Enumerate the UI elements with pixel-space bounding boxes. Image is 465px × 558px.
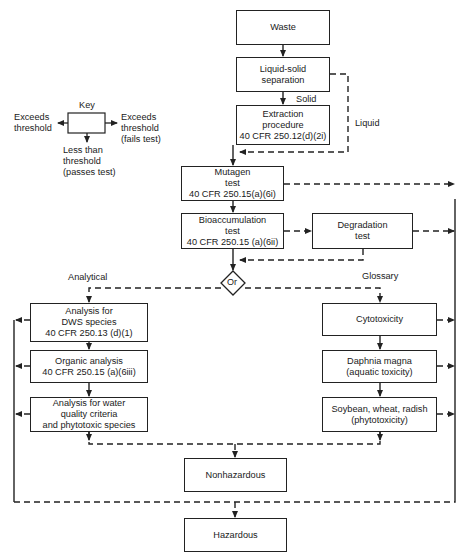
node-text: Degradation [337, 220, 387, 231]
node-text: procedure [262, 120, 303, 131]
decision-or-label: Or [227, 277, 237, 287]
node-text: separation [262, 75, 305, 86]
node-text: Extraction [263, 109, 304, 120]
node-text: 40 CFR 250.15(a)(6i) [189, 189, 276, 200]
key-text: threshold [121, 123, 161, 134]
node-extraction-procedure: Extraction procedure 40 CFR 250.12(d)(2i… [236, 105, 330, 145]
node-cytotoxicity: Cytotoxicity [322, 303, 437, 336]
node-text: Liquid-solid [260, 64, 306, 75]
edge-label-glossary: Glossary [362, 271, 398, 282]
node-water-quality-analysis: Analysis for water quality criteria and … [30, 397, 148, 432]
node-text: 40 CFR 250.12(d)(2i) [240, 131, 327, 142]
node-text: Hazardous [213, 530, 257, 541]
node-mutagen-test: Mutagen test 40 CFR 250.15(a)(6i) [181, 166, 284, 201]
node-nonhazardous: Nonhazardous [184, 458, 287, 492]
node-text: test [225, 226, 240, 237]
node-text: Nonhazardous [206, 470, 266, 481]
edge-label-solid: Solid [296, 94, 316, 105]
node-text: Organic analysis [55, 356, 123, 367]
node-hazardous: Hazardous [184, 518, 287, 552]
node-text: 40 CFR 250.15 (a)(6iii) [42, 367, 135, 378]
key-right-label: Exceeds threshold (fails test) [121, 112, 161, 145]
node-bioaccumulation-test: Bioaccumulation test 40 CFR 250.15 (a)(6… [181, 213, 284, 249]
key-text: threshold [63, 156, 116, 167]
key-text: Exceeds [14, 112, 52, 123]
key-text: threshold [14, 123, 52, 134]
node-text: and phytotoxic species [43, 420, 136, 431]
node-soybean-wheat-radish: Soybean, wheat, radish (phytotoxicity) [322, 397, 437, 432]
key-text: (passes test) [63, 167, 116, 178]
node-text: Analysis for water [53, 398, 126, 409]
node-organic-analysis: Organic analysis 40 CFR 250.15 (a)(6iii) [30, 350, 148, 383]
node-text: test [355, 231, 370, 242]
node-text: Analysis for [65, 306, 113, 317]
node-text: (phytotoxicity) [351, 415, 408, 426]
node-text: 40 CFR 250.15 (a)(6ii) [187, 237, 278, 248]
key-text: Less than [63, 145, 116, 156]
node-text: 40 CFR 250.13 (d)(1) [45, 328, 132, 339]
node-text: quality criteria [61, 409, 118, 420]
node-degradation-test: Degradation test [312, 213, 413, 249]
node-text: (aquatic toxicity) [346, 367, 412, 378]
key-text: (fails test) [121, 134, 161, 145]
node-waste: Waste [236, 10, 330, 45]
edge-label-analytical: Analytical [68, 272, 107, 283]
node-text: Waste [270, 22, 296, 33]
node-text: Bioaccumulation [199, 215, 266, 226]
node-liquid-solid-separation: Liquid-solid separation [236, 57, 330, 92]
key-text: Exceeds [121, 112, 161, 123]
key-left-label: Exceeds threshold [14, 112, 52, 134]
key-title: Key [79, 100, 95, 111]
node-text: Cytotoxicity [356, 314, 403, 325]
key-bottom-label: Less than threshold (passes test) [63, 145, 116, 178]
edge-label-liquid: Liquid [355, 118, 380, 129]
node-text: Soybean, wheat, radish [331, 404, 427, 415]
node-dws-species-analysis: Analysis for DWS species 40 CFR 250.13 (… [30, 303, 148, 342]
node-text: Daphnia magna [347, 356, 412, 367]
node-daphnia-magna: Daphnia magna (aquatic toxicity) [322, 350, 437, 383]
node-text: DWS species [61, 317, 116, 328]
node-text: test [225, 178, 240, 189]
node-text: Mutagen [215, 167, 251, 178]
